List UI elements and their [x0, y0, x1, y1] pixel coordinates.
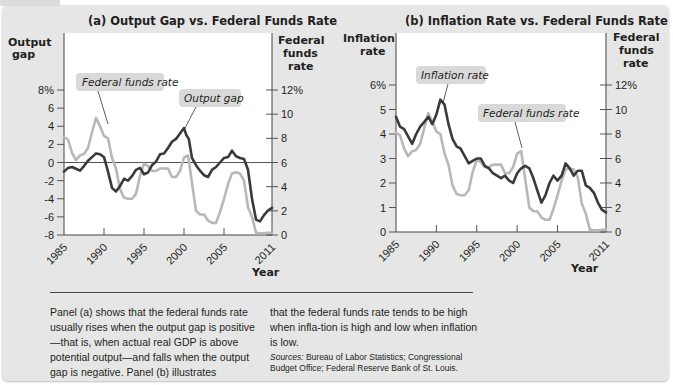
panel-b-x-tick-label: 1985 — [376, 238, 402, 264]
panel-a-x-tick-label: 2005 — [204, 241, 230, 267]
panel-a-right-tick-label: 6 — [281, 157, 287, 169]
panel-b-right-tick-label: 4 — [615, 177, 621, 189]
panel-b-right-tick-label: 0 — [615, 226, 621, 238]
panel-a-callout-label: Output gap — [184, 92, 244, 104]
panel-b-right-ylabel-line3: rate — [623, 57, 649, 70]
panel-a-left-tick-label: -2 — [44, 175, 54, 187]
panel-a-x-tick-label: 2000 — [164, 241, 190, 267]
caption-left: Panel (a) shows that the federal funds r… — [50, 305, 255, 380]
panel-b-x-tick-label: 2000 — [497, 238, 523, 264]
panel-b-x-tick-label: 2011 — [586, 238, 611, 263]
panel-b-left-tick-label: 2 — [380, 177, 386, 189]
sources-note: Sources: Bureau of Labor Statistics; Con… — [270, 352, 480, 374]
panel-b-x-tick-label: 1990 — [416, 238, 442, 264]
panel-a-xlabel: Year — [251, 266, 280, 279]
panel-b-left-ylabel-line1: Inflation — [343, 32, 395, 45]
panel-a-right-tick-label: 2 — [281, 205, 287, 217]
panel-a-x-tick-label: 2011 — [252, 241, 277, 266]
panel-b-plot-area — [396, 33, 606, 232]
panel-a-right-tick-label: 4 — [281, 181, 287, 193]
panel-a-left-tick-label: -8 — [44, 229, 54, 241]
panel-a-title: (a) Output Gap vs. Federal Funds Rate — [88, 14, 337, 28]
panel-a-right-tick-label: 10 — [281, 108, 293, 120]
panel-b-left-tick-label: 6% — [370, 79, 386, 91]
panel-b-right-tick-label: 12% — [615, 79, 637, 91]
panel-b-right-ylabel-line1: Federal — [613, 31, 659, 44]
panel-b-left-tick-label: 1 — [380, 202, 386, 214]
panel-a-left-ylabel-line2: gap — [12, 48, 35, 61]
panel-a-x-tick-label: 1990 — [84, 241, 110, 267]
panel-b-right-tick-label: 2 — [615, 202, 621, 214]
panel-a-left-tick-label: 4 — [48, 120, 54, 132]
panel-a-x-tick-label: 1995 — [124, 241, 150, 267]
panel-b-left-tick-label: 4 — [380, 128, 386, 140]
panel-a-x-tick-label: 1985 — [44, 241, 70, 267]
panel-a-plot-area — [64, 33, 272, 235]
panel-a-right-tick-label: 0 — [281, 229, 287, 241]
panel-b-right-tick-label: 6 — [615, 153, 621, 165]
panel-b-right-ylabel-line2: funds — [619, 44, 654, 57]
caption-divider — [50, 292, 473, 293]
panel-b-left-tick-label: 0 — [380, 226, 386, 238]
panel-b-x-tick-label: 2005 — [537, 238, 563, 264]
panel-a-left-tick-label: 2 — [48, 138, 54, 150]
sources-label: Sources: — [270, 352, 304, 362]
panel-a-left-tick-label: -6 — [44, 211, 54, 223]
panel-b-xlabel: Year — [570, 262, 599, 275]
caption-right: that the federal funds rate tends to be … — [270, 305, 480, 374]
panel-a-right-ylabel-line2: funds — [283, 47, 318, 60]
panel-a-left-tick-label: 0 — [48, 157, 54, 169]
panel-a-right-ylabel-line3: rate — [288, 60, 314, 73]
panel-a-right-tick-label: 8 — [281, 132, 287, 144]
panel-b-x-tick-label: 1995 — [456, 238, 482, 264]
panel-b-left-tick-label: 5 — [380, 104, 386, 116]
panel-a-right-ylabel-line1: Federal — [278, 34, 324, 47]
panel-a-left-tick-label: -4 — [44, 193, 54, 205]
panel-b-callout-label: Federal funds rate — [483, 107, 579, 119]
panel-b-callout-label: Inflation rate — [421, 69, 489, 81]
panel-a-right-tick-label: 12% — [281, 84, 303, 96]
panel-a-callout-label: Federal funds rate — [82, 76, 178, 88]
panel-a-left-tick-label: 6 — [48, 102, 54, 114]
panel-b-right-tick-label: 8 — [615, 128, 621, 140]
panel-b-left-ylabel-line2: rate — [360, 45, 386, 58]
panel-b-left-tick-label: 3 — [380, 153, 386, 165]
panel-a-left-tick-label: 8% — [38, 84, 54, 96]
caption-right-text: that the federal funds rate tends to be … — [270, 305, 480, 350]
panel-b-right-tick-label: 10 — [615, 104, 627, 116]
panel-b-title: (b) Inflation Rate vs. Federal Funds Rat… — [405, 14, 668, 28]
